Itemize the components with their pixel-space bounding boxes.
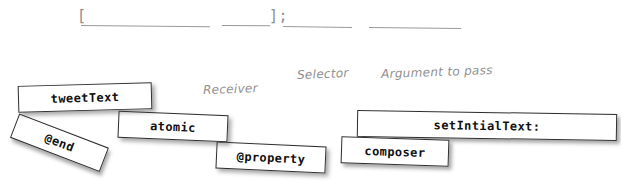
tile-property[interactable]: @property <box>215 142 326 174</box>
selector-blank[interactable] <box>222 25 270 26</box>
argument-annotation: Argument to pass <box>381 63 493 81</box>
receiver-annotation: Receiver <box>203 81 258 97</box>
receiver-blank[interactable] <box>81 25 210 27</box>
tile-atomic[interactable]: atomic <box>117 111 228 143</box>
tile-end[interactable]: @end <box>10 113 109 172</box>
open-bracket: [ <box>77 7 87 25</box>
tile-tweettext[interactable]: tweetText <box>18 82 153 113</box>
code-magnet-puzzle: [ ]; Receiver Selector Argument to pass … <box>0 0 621 187</box>
argument-blank[interactable] <box>369 27 461 29</box>
selector-annotation: Selector <box>297 66 349 82</box>
close-bracket-semicolon: ]; <box>269 7 288 25</box>
tile-setintialtext[interactable]: setIntialText: <box>357 110 617 141</box>
tile-composer[interactable]: composer <box>341 136 450 166</box>
trailing-blank-1[interactable] <box>283 26 352 28</box>
